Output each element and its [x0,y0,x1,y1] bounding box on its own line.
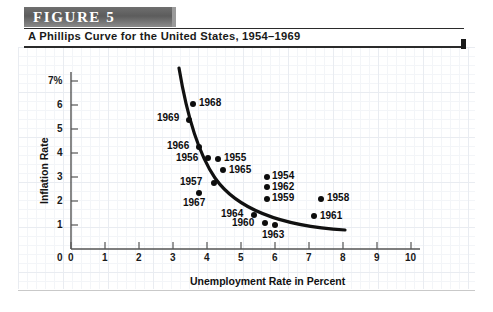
y-tick-7: 7% [48,75,62,86]
y-tick-5: 5 [57,123,63,134]
data-point-1955 [215,156,221,162]
data-point-1963 [272,222,278,228]
x-tick-9: 9 [374,252,380,263]
y-tick-3: 3 [57,171,63,182]
data-point-1968 [190,101,196,107]
y-axis-title: Inflation Rate [38,137,50,204]
figure-bottom-rule [18,290,475,291]
x-tick-7: 7 [306,252,312,263]
x-axis-ticks [71,242,411,249]
data-label-1963: 1963 [262,229,284,240]
x-tick-2: 2 [136,252,142,263]
data-point-1965 [220,167,226,173]
data-label-1967: 1967 [183,197,205,208]
phillips-curve-plot [0,0,493,312]
x-axis-title: Unemployment Rate in Percent [190,275,345,287]
data-point-1954 [264,174,270,180]
data-label-1958: 1958 [327,192,349,203]
data-point-1959 [264,196,270,202]
x-tick-0: 0 [68,252,74,263]
data-label-1965: 1965 [229,164,251,175]
x-tick-10: 10 [405,252,416,263]
data-point-1960 [262,220,268,226]
x-tick-4: 4 [204,252,210,263]
figure-panel: FIGURE 5 A Phillips Curve for the United… [0,0,493,312]
data-label-1956: 1956 [176,152,198,163]
data-point-1961 [311,213,317,219]
data-label-1966: 1966 [167,140,189,151]
x-tick-8: 8 [340,252,346,263]
y-tick-0: 0 [57,252,63,263]
data-label-1957: 1957 [180,176,202,187]
data-label-1968: 1968 [199,97,221,108]
data-point-1958 [318,196,324,202]
data-label-1955: 1955 [224,152,246,163]
y-tick-2: 2 [57,195,63,206]
data-point-1962 [264,184,270,190]
data-point-1967 [196,190,202,196]
x-tick-5: 5 [238,252,244,263]
x-tick-6: 6 [272,252,278,263]
y-tick-6: 6 [57,99,63,110]
data-point-1966 [196,144,202,150]
data-point-1969 [186,117,192,123]
data-point-1956 [205,155,211,161]
data-label-1961: 1961 [320,210,342,221]
data-label-1960: 1960 [232,217,254,228]
x-tick-1: 1 [102,252,108,263]
x-tick-3: 3 [170,252,176,263]
data-point-1957 [211,180,217,186]
y-axis-ticks [71,81,78,225]
y-tick-1: 1 [57,219,63,230]
data-label-1962: 1962 [272,181,294,192]
data-label-1969: 1969 [157,112,179,123]
y-tick-4: 4 [57,147,63,158]
data-label-1954: 1954 [272,170,294,181]
data-label-1959: 1959 [272,192,294,203]
